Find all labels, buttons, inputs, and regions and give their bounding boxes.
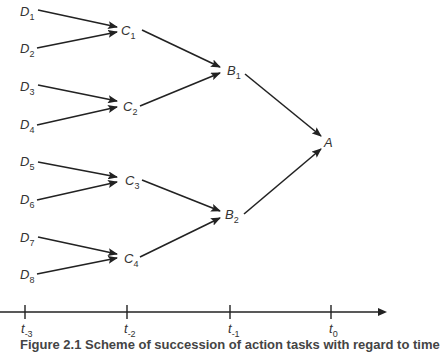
- node-c4: C4: [124, 252, 138, 269]
- edge-b1-a: [245, 74, 321, 136]
- node-d1: D1: [20, 5, 34, 22]
- edge-d7-c4: [38, 237, 117, 254]
- node-d8: D8: [20, 268, 34, 285]
- time-axis: [0, 305, 387, 319]
- edge-d3-c2: [38, 85, 117, 101]
- node-d3: D3: [20, 80, 34, 97]
- node-d7: D7: [20, 231, 34, 248]
- node-c3: C3: [125, 174, 139, 191]
- edge-d2-c1: [37, 32, 117, 48]
- node-c1: C1: [121, 24, 135, 41]
- edge-d6-c3: [37, 182, 117, 200]
- edge-c3-b2: [142, 180, 220, 211]
- node-d4: D4: [20, 118, 34, 135]
- edge-b2-a: [244, 149, 321, 214]
- edge-d5-c3: [38, 162, 117, 177]
- edge-c2-b1: [140, 73, 220, 106]
- figure-caption: Figure 2.1 Scheme of succession of actio…: [20, 337, 440, 352]
- node-b1: B1: [227, 64, 241, 81]
- node-a: A: [324, 136, 333, 149]
- node-d5: D5: [20, 155, 34, 172]
- node-d6: D6: [20, 193, 34, 210]
- node-d2: D2: [20, 42, 34, 59]
- edge-c4-b2: [140, 218, 220, 257]
- node-b2: B2: [225, 208, 239, 225]
- edge-c1-b1: [142, 30, 220, 67]
- node-c2: C2: [123, 100, 137, 117]
- edge-d4-c2: [37, 107, 117, 125]
- edge-d1-c1: [38, 10, 117, 27]
- edge-d8-c4: [37, 258, 117, 274]
